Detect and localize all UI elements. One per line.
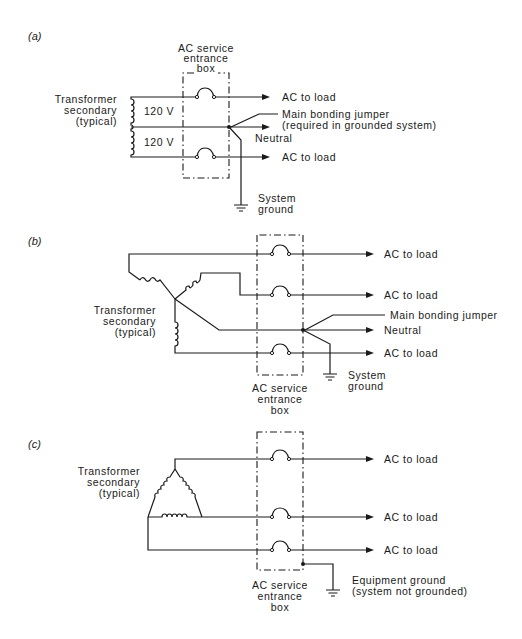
jumper-label-line2: (required in grounded system) xyxy=(282,119,437,131)
breaker-icon xyxy=(272,245,366,254)
output-label: AC to load xyxy=(384,289,438,301)
delta-transformer-icon xyxy=(148,459,270,550)
breaker-icon xyxy=(272,508,366,517)
arrow-icon xyxy=(366,547,374,553)
arrow-icon xyxy=(366,456,374,462)
neutral-label: Neutral xyxy=(384,324,421,336)
transformer-label-line3: (typical) xyxy=(99,487,140,499)
transformer-label-line3: (typical) xyxy=(76,115,117,127)
ground-label-line2: (system not grounded) xyxy=(352,585,468,597)
box-label-line3: box xyxy=(197,62,216,74)
box-label-line3: box xyxy=(271,404,290,416)
neutral-label: Neutral xyxy=(255,132,292,144)
voltage-label-upper: 120 V xyxy=(144,105,174,117)
arrow-icon xyxy=(262,94,270,100)
ground-icon xyxy=(326,590,340,596)
ground-icon xyxy=(234,205,248,211)
service-entrance-box xyxy=(257,235,303,375)
panel-b: (b) AC service entrance box Transformer … xyxy=(28,235,498,416)
breaker-icon xyxy=(272,541,366,550)
service-entrance-box xyxy=(257,432,303,570)
ground-icon xyxy=(323,374,337,380)
ground-label-line2: ground xyxy=(348,380,384,392)
panel-a: (a) AC service entrance box Transformer … xyxy=(28,30,437,215)
arrow-icon xyxy=(366,292,374,298)
arrow-icon xyxy=(366,514,374,520)
output-label: AC to load xyxy=(384,544,438,556)
breaker-icon xyxy=(272,344,366,353)
breaker-icon xyxy=(197,148,214,157)
arrow-icon xyxy=(262,124,270,130)
breaker-icon xyxy=(272,450,366,459)
grounding-diagram: (a) AC service entrance box Transformer … xyxy=(0,0,522,639)
arrow-icon xyxy=(366,350,374,356)
ground-label-line2: ground xyxy=(258,203,294,215)
breaker-icon xyxy=(272,286,366,295)
jumper-label: Main bonding jumper xyxy=(390,309,498,321)
output-label: AC to load xyxy=(384,248,438,260)
arrow-icon xyxy=(262,154,270,160)
service-entrance-box xyxy=(183,73,229,178)
arrow-icon xyxy=(366,251,374,257)
panel-label-c: (c) xyxy=(28,438,41,450)
panel-c: (c) AC service entrance box Transformer … xyxy=(28,432,468,613)
ground-wire xyxy=(229,127,241,205)
ground-wire xyxy=(303,330,330,374)
box-label-line3: box xyxy=(271,601,290,613)
output-label: AC to load xyxy=(282,91,336,103)
output-label: AC to load xyxy=(384,453,438,465)
arrow-icon xyxy=(366,327,374,333)
breaker-icon xyxy=(197,88,214,97)
panel-label-b: (b) xyxy=(28,235,42,247)
output-label: AC to load xyxy=(384,347,438,359)
jumper-leader xyxy=(305,315,385,330)
panel-label-a: (a) xyxy=(28,30,42,42)
voltage-label-lower: 120 V xyxy=(144,136,174,148)
jumper-leader xyxy=(231,114,278,127)
transformer-label-line3: (typical) xyxy=(115,326,156,338)
output-label: AC to load xyxy=(384,511,438,523)
output-label: AC to load xyxy=(282,151,336,163)
